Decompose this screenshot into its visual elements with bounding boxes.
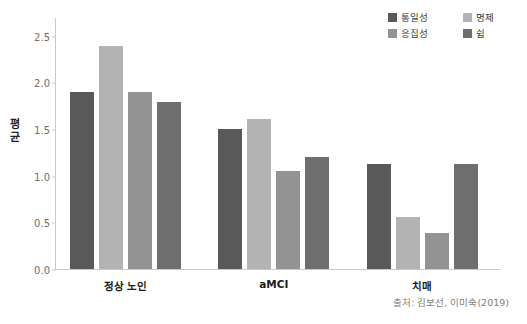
y-axis-tick-label: 1.0	[34, 171, 50, 182]
y-axis-tick-mark	[52, 36, 56, 37]
y-axis-tick-label: 0.5	[34, 218, 50, 229]
y-axis-tick-label: 2.5	[34, 31, 50, 42]
y-axis-tick-mark	[52, 83, 56, 84]
bar[interactable]	[218, 129, 242, 269]
plot-frame: 0.00.51.01.52.02.5정상 노인aMCI치매	[55, 18, 500, 270]
x-axis-tick-label: 정상 노인	[104, 278, 148, 293]
bar-group: aMCI	[218, 18, 329, 269]
bar[interactable]	[425, 233, 449, 269]
y-axis-title: 평균	[8, 118, 22, 144]
bar-group: 정상 노인	[70, 18, 181, 269]
bar-chart-figure: 통일성명제응집성쉼 0.00.51.01.52.02.5정상 노인aMCI치매 …	[0, 0, 527, 324]
y-axis-tick-mark	[52, 130, 56, 131]
bar-group-bars	[367, 18, 478, 269]
bar[interactable]	[454, 164, 478, 269]
source-note: 출처: 김보선, 이미숙(2019)	[393, 295, 509, 309]
x-axis-tick-label: aMCI	[259, 278, 288, 290]
bar[interactable]	[128, 92, 152, 269]
bar[interactable]	[276, 171, 300, 269]
x-axis-tick-label: 치매	[412, 278, 432, 293]
bar[interactable]	[70, 92, 94, 269]
bar[interactable]	[157, 102, 181, 269]
bar-group: 치매	[367, 18, 478, 269]
bar-group-bars	[218, 18, 329, 269]
bar[interactable]	[367, 164, 391, 269]
bar[interactable]	[305, 157, 329, 269]
y-axis-tick-label: 2.0	[34, 78, 50, 89]
y-axis-tick-mark	[52, 270, 56, 271]
bar[interactable]	[396, 217, 420, 269]
y-axis-tick-label: 0.0	[34, 265, 50, 276]
y-axis-tick-label: 1.5	[34, 125, 50, 136]
y-axis-tick-mark	[52, 176, 56, 177]
bar[interactable]	[99, 46, 123, 269]
bar[interactable]	[247, 119, 271, 269]
y-axis-tick-mark	[52, 223, 56, 224]
plot-area: 0.00.51.01.52.02.5정상 노인aMCI치매	[56, 18, 500, 269]
bar-group-bars	[70, 18, 181, 269]
